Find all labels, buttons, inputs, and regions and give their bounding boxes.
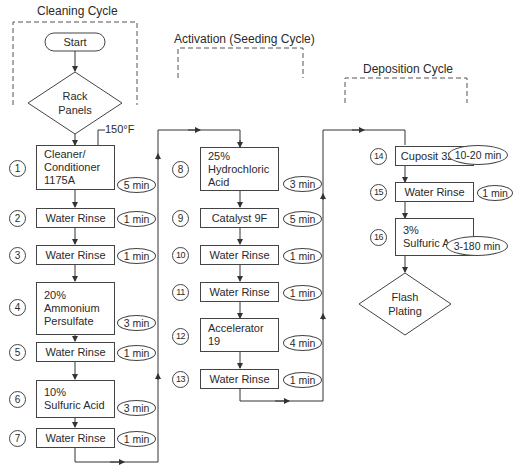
step-duration: 3 min	[117, 400, 156, 416]
step-name: Cleaner/ Conditioner 1175A	[44, 148, 100, 187]
step-name: Water Rinse	[209, 249, 269, 262]
step-number: 3	[9, 247, 26, 264]
step-number: 10	[172, 247, 189, 264]
step-number: 7	[9, 430, 26, 447]
step-name: Water Rinse	[45, 249, 105, 262]
step-duration: 4 min	[283, 335, 322, 351]
step-name: 10% Sulfuric Acid	[44, 386, 105, 412]
step-name: 25% Hydrochloric Acid	[208, 150, 269, 189]
step-number: 9	[172, 210, 189, 227]
step-number: 13	[172, 371, 189, 388]
activation-cycle-title: Activation (Seeding Cycle)	[174, 32, 315, 46]
step-duration: 1 min	[283, 285, 322, 301]
step-box: Accelerator 19	[200, 318, 279, 352]
step-number: 5	[9, 344, 26, 361]
deposition-cycle-title: Deposition Cycle	[363, 62, 453, 76]
step-duration: 10-20 min	[448, 145, 508, 165]
step-number: 6	[9, 391, 26, 408]
step-box: 20% Ammonium Persulfate	[36, 282, 115, 335]
step-box: 10% Sulfuric Acid	[36, 380, 115, 418]
step-box: Water Rinse	[200, 369, 279, 389]
step-name: Water Rinse	[45, 212, 105, 225]
step-number: 12	[172, 328, 189, 345]
step-box: Water Rinse	[36, 208, 115, 228]
step-duration: 1 min	[283, 248, 322, 264]
step-number: 2	[9, 210, 26, 227]
step-box: Water Rinse	[200, 245, 279, 265]
step-box: Water Rinse	[36, 428, 115, 448]
step-duration: 5 min	[117, 177, 156, 193]
step-number: 11	[172, 284, 189, 301]
step-box: Water Rinse	[36, 245, 115, 265]
step-box: Water Rinse	[200, 282, 279, 302]
start-terminal: Start	[45, 35, 105, 49]
step-duration: 5 min	[283, 211, 322, 227]
cleaning-cycle-title: Cleaning Cycle	[37, 4, 118, 18]
step-name: Catalyst 9F	[212, 212, 268, 225]
step-box: Cleaner/ Conditioner 1175A	[36, 145, 115, 190]
step-name: 20% Ammonium Persulfate	[44, 289, 100, 328]
step-number: 16	[370, 229, 387, 246]
step-duration: 3 min	[283, 176, 322, 192]
step-name: Accelerator 19	[208, 322, 264, 348]
step-number: 15	[370, 184, 387, 201]
step-duration: 3-180 min	[446, 236, 508, 256]
step-number: 4	[9, 299, 26, 316]
flash-plating-terminal: Flash Plating	[370, 290, 440, 318]
step-box: 25% Hydrochloric Acid	[200, 147, 279, 191]
step-duration: 1 min	[117, 431, 156, 447]
step-name: Water Rinse	[209, 286, 269, 299]
step-number: 1	[9, 160, 26, 177]
step-duration: 3 min	[117, 315, 156, 331]
temperature-note: 150°F	[105, 123, 134, 135]
step-name: Water Rinse	[45, 432, 105, 445]
step-box: Catalyst 9F	[200, 208, 279, 228]
step-box: Water Rinse	[36, 342, 115, 362]
rack-panels-decision: Rack Panels	[40, 89, 110, 117]
step-duration: 1 min	[283, 372, 322, 388]
step-duration: 1 min	[117, 248, 156, 264]
step-number: 8	[172, 161, 189, 178]
step-box: Water Rinse	[395, 182, 474, 202]
step-duration: 1 min	[117, 345, 156, 361]
step-duration: 1 min	[117, 211, 156, 227]
step-duration: 1 min	[477, 185, 513, 201]
step-name: Water Rinse	[404, 186, 464, 199]
step-name: Water Rinse	[209, 373, 269, 386]
step-number: 14	[370, 148, 387, 165]
step-name: Water Rinse	[45, 346, 105, 359]
